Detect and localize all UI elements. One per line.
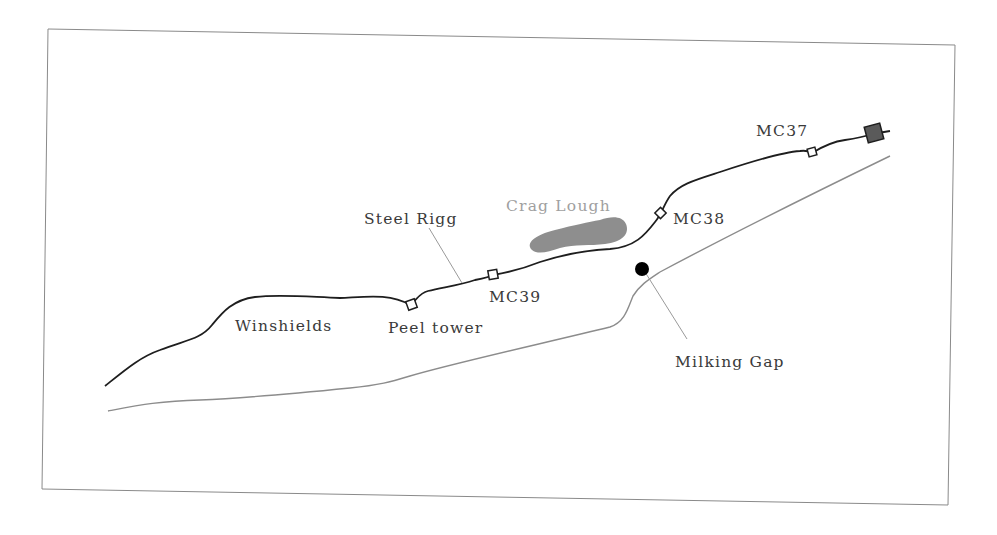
fort-marker[interactable] xyxy=(864,123,884,143)
steel-rigg-leader xyxy=(429,228,462,283)
mc37-marker[interactable] xyxy=(807,147,817,157)
steel-rigg-label: Steel Rigg xyxy=(364,210,458,228)
road-line xyxy=(108,156,890,411)
mc38-marker[interactable] xyxy=(655,207,666,218)
milking-gap-dot[interactable] xyxy=(635,262,649,276)
hadrians-wall-map: Crag Lough Steel Rigg MC37 MC38 MC39 Pee… xyxy=(0,0,997,535)
mc39-marker[interactable] xyxy=(488,269,498,279)
map-frame xyxy=(42,29,955,505)
milking-gap-leader xyxy=(645,272,687,339)
wall-line xyxy=(105,131,890,386)
crag-lough-label: Crag Lough xyxy=(506,197,611,215)
mc38-label: MC38 xyxy=(673,210,725,228)
winshields-label: Winshields xyxy=(235,317,333,335)
peel-tower-label: Peel tower xyxy=(388,319,483,337)
peel-tower-marker[interactable] xyxy=(406,299,418,311)
mc39-label: MC39 xyxy=(489,288,541,306)
crag-lough-lake xyxy=(530,217,627,252)
milking-gap-label: Milking Gap xyxy=(675,353,785,371)
mc37-label: MC37 xyxy=(756,122,808,140)
